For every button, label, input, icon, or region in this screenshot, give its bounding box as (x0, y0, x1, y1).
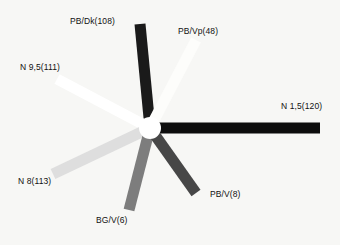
spoke-label-bg-v: BG/V(6) (96, 216, 127, 225)
spoke-label-pb-vp: PB/Vp(48) (178, 27, 218, 36)
spoke-label-pb-v: PB/V(8) (210, 190, 240, 199)
spoke-label-n-8: N 8(113) (18, 177, 51, 186)
center-hub (139, 117, 161, 139)
spoke-label-pb-dk: PB/Dk(108) (70, 17, 115, 26)
radial-spoke-chart (0, 0, 340, 245)
diagram-canvas: PB/Dk(108)PB/Vp(48)N 9,5(111)N 1,5(120)N… (0, 0, 340, 245)
spoke-label-n-95: N 9,5(111) (20, 63, 60, 72)
hub-layer (139, 117, 161, 139)
spoke-label-n-15: N 1,5(120) (281, 102, 322, 111)
